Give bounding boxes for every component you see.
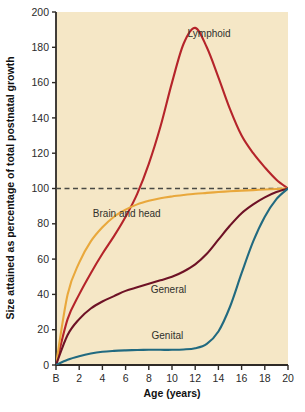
y-tick-label: 20: [37, 323, 49, 335]
series-label-genital: Genital: [152, 330, 184, 341]
x-tick-label: 4: [99, 372, 105, 384]
x-tick-label: 20: [282, 372, 294, 384]
y-tick-label: 40: [37, 288, 49, 300]
y-tick-label: 200: [31, 6, 49, 18]
x-tick-label: 18: [259, 372, 271, 384]
x-tick-label: 14: [213, 372, 225, 384]
y-tick-label: 0: [43, 359, 49, 371]
y-tick-label: 180: [31, 41, 49, 53]
x-tick-label: 2: [76, 372, 82, 384]
y-tick-label: 100: [31, 182, 49, 194]
y-tick-label: 80: [37, 217, 49, 229]
y-tick-label: 140: [31, 112, 49, 124]
series-label-general: General: [151, 284, 187, 295]
x-tick-label: 12: [189, 372, 201, 384]
series-label-lymphoid: Lymphoid: [188, 28, 231, 39]
series-label-brain-and-head: Brain and head: [93, 208, 161, 219]
x-tick-label: 8: [146, 372, 152, 384]
chart-canvas: 020406080100120140160180200 B24681012141…: [0, 0, 305, 412]
y-axis-title: Size attained as percentage of total pos…: [4, 56, 16, 319]
y-tick-label: 160: [31, 76, 49, 88]
y-tick-label: 60: [37, 253, 49, 265]
x-tick-label: 6: [123, 372, 129, 384]
x-tick-label: 16: [236, 372, 248, 384]
x-axis-title: Age (years): [143, 387, 200, 399]
x-tick-label: B: [52, 372, 59, 384]
y-tick-label: 120: [31, 147, 49, 159]
x-tick-label: 10: [166, 372, 178, 384]
growth-curves-figure: 020406080100120140160180200 B24681012141…: [0, 0, 305, 412]
